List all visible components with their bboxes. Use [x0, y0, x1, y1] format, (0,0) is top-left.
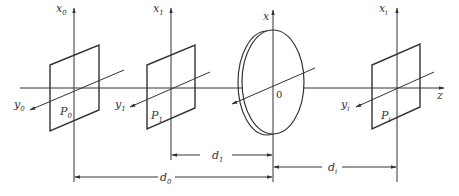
x1-axis-label: x1 — [153, 2, 164, 17]
z-axis: z — [20, 88, 444, 102]
origin-label: 0 — [276, 89, 282, 100]
xi-axis-label: xi — [379, 2, 387, 17]
optical-system-diagram: z x0 y0 P0 x1 y1 P1 x 0 xi yi Pi — [0, 0, 459, 196]
p1-label: P1 — [150, 109, 163, 124]
y1-axis-label: y1 — [114, 98, 126, 113]
plane-p1: x1 y1 P1 — [114, 2, 210, 160]
z-axis-label: z — [436, 89, 443, 102]
plane-pi: xi yi Pi — [340, 2, 434, 182]
d0-label: d0 — [160, 171, 172, 186]
lens-x-axis-label: x — [263, 10, 270, 23]
p0-label: P0 — [59, 105, 72, 120]
pi-label: Pi — [380, 109, 391, 124]
x0-axis-label: x0 — [56, 2, 67, 17]
di-label: di — [328, 161, 337, 176]
distance-di: di — [274, 161, 396, 176]
d1-label: d1 — [212, 149, 224, 164]
distance-d0: d0 — [75, 171, 272, 186]
y0-axis-label: y0 — [13, 98, 25, 113]
yi-axis-label: yi — [340, 98, 349, 113]
lens: x 0 — [232, 10, 315, 182]
plane-p0: x0 y0 P0 — [13, 2, 124, 182]
distance-d1: d1 — [172, 149, 272, 164]
